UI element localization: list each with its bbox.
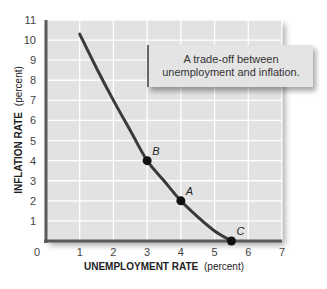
x-tick-label: 2 [110, 246, 116, 258]
y-tick-label: 4 [30, 155, 36, 167]
x-tick-label: 1 [77, 246, 83, 258]
y-axis-ticks: 1234567891011 [24, 14, 36, 227]
y-tick-label: 5 [30, 135, 36, 147]
y-tick-label: 11 [25, 14, 36, 26]
point-a-marker [176, 196, 185, 205]
annotation-box: A trade-off between unemployment and inf… [147, 45, 313, 87]
x-axis-ticks: 01234567 [34, 246, 285, 258]
y-tick-label: 1 [30, 215, 36, 227]
point-c-marker [227, 237, 236, 246]
y-tick-label: 3 [30, 175, 36, 187]
annotation-line-1: A trade-off between [162, 53, 300, 66]
x-tick-label: 0 [34, 246, 40, 258]
annotation-line-2: unemployment and inflation. [162, 66, 300, 79]
y-axis-title: INFLATION RATE (percent) [13, 66, 24, 194]
y-tick-label: 10 [24, 34, 36, 46]
x-tick-label: 6 [245, 246, 251, 258]
x-tick-label: 5 [212, 246, 218, 258]
y-tick-label: 7 [30, 94, 36, 106]
y-tick-label: 9 [30, 54, 36, 66]
point-c-label: C [236, 225, 244, 237]
x-axis-title: UNEMPLOYMENT RATE (percent) [84, 261, 244, 272]
y-tick-label: 2 [30, 195, 36, 207]
phillips-curve-chart: 1234567891011 01234567 BAC UNEMPLOYMENT … [0, 0, 327, 289]
point-b-marker [143, 156, 152, 165]
y-tick-label: 8 [30, 74, 36, 86]
y-tick-label: 6 [30, 114, 36, 126]
x-tick-label: 3 [144, 246, 150, 258]
x-tick-label: 4 [178, 246, 184, 258]
x-tick-label: 7 [279, 246, 285, 258]
point-a-label: A [185, 185, 193, 197]
point-b-label: B [152, 145, 159, 157]
